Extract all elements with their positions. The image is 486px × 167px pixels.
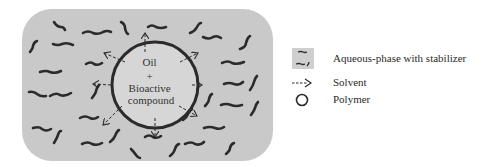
droplet-label-oil: Oil — [143, 56, 157, 68]
dashed-arrow-icon — [292, 79, 311, 87]
aqueous-phase-swatch-icon — [292, 48, 314, 69]
legend-label-solvent: Solvent — [333, 76, 367, 88]
legend-label-polymer: Polymer — [333, 93, 370, 105]
legend-label-aqueous-phase: Aqueous-phase with stabilizer — [333, 52, 466, 64]
droplet-label-plus: + — [147, 70, 153, 82]
emulsion-diagram: Oil + Bioactive compound — [0, 0, 486, 167]
legend — [292, 48, 314, 106]
droplet-label-bioactive: Bioactive — [129, 82, 171, 94]
circle-icon — [297, 95, 308, 106]
droplet-label-compound: compound — [128, 94, 175, 106]
